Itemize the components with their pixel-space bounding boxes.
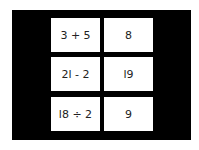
- answer-card[interactable]: 9: [104, 97, 153, 131]
- answer-card[interactable]: l9: [104, 57, 153, 91]
- expression-card[interactable]: 2l - 2: [51, 57, 100, 91]
- expression-card[interactable]: 3 + 5: [51, 18, 100, 52]
- expression-card[interactable]: l8 ÷ 2: [51, 97, 100, 131]
- game-board: 3 + 5 8 2l - 2 l9 l8 ÷ 2 9: [12, 10, 191, 140]
- answer-card[interactable]: 8: [104, 18, 153, 52]
